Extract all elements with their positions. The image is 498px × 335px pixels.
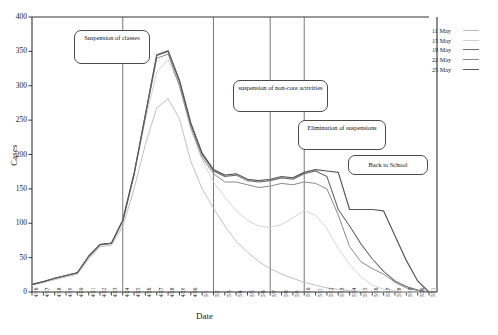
event-lines-group [123,17,304,292]
x-tick-label: 4/30 [193,288,198,297]
legend-label: 25 May [432,66,463,73]
x-tick-label: 5/9 [295,290,300,297]
x-tick-label: 5/15 [363,288,368,297]
x-tick-label: 4/29 [181,288,186,297]
x-tick-label: 5/1 [204,290,209,297]
chart-legend: 11 May15 May19 May22 May25 May [432,26,494,74]
legend-item: 25 May [432,64,494,74]
x-tick-label: 4/27 [159,288,164,297]
x-tick-label: 5/18 [397,288,402,297]
legend-item: 11 May [432,26,494,36]
legend-item: 22 May [432,55,494,65]
x-tick-label: 5/11 [318,288,323,297]
x-tick-label: 4/23 [113,288,118,297]
x-tick-label: 5/8 [284,290,289,297]
legend-swatch [463,49,479,50]
annotation-back-to-school: Back to School [348,155,428,175]
y-tick-label: 200 [1,151,27,159]
legend-swatch [463,40,479,41]
legend-item: 19 May [432,45,494,55]
x-tick-label: 4/19 [68,288,73,297]
x-axis-title: Date [196,311,213,321]
x-tick-label: 5/5 [250,290,255,297]
x-tick-label: 4/21 [91,288,96,297]
annotation-elimination-of-suspensions: Elimination of suspensions [298,120,386,150]
x-tick-label: 5/4 [238,290,243,297]
x-tick-label: 4/28 [170,288,175,297]
x-tick-label: 5/21 [431,288,436,297]
y-tick-label: 400 [1,13,27,21]
x-tick-label: 5/14 [352,288,357,297]
x-tick-label: 5/19 [408,288,413,297]
x-tick-label: 5/16 [374,288,379,297]
legend-item: 15 May [432,36,494,46]
y-tick-label: 250 [1,116,27,124]
legend-swatch [463,69,479,70]
y-tick-label: 0 [1,288,27,296]
y-tick-label: 300 [1,82,27,90]
x-tick-label: 5/2 [215,290,220,297]
x-tick-label: 5/3 [227,290,232,297]
legend-label: 19 May [432,46,463,53]
x-tick-label: 4/26 [147,288,152,297]
chart-figure: Cases Date 400350300250200150100500 4/16… [0,0,498,335]
x-tick-label: 4/16 [34,288,39,297]
x-tick-label: 4/24 [125,288,130,297]
x-tick-label: 5/7 [272,290,277,297]
y-tick-label: 100 [1,219,27,227]
x-tick-label: 4/18 [57,288,62,297]
x-tick-label: 5/20 [420,288,425,297]
annotation-suspension-of-classes: Suspension of classes [74,30,150,64]
y-tick-label: 150 [1,185,27,193]
x-tick-label: 4/22 [102,288,107,297]
annotation-suspension-of-non-core-activities: suspension of non-core activities [233,80,328,112]
x-tick-label: 5/17 [386,288,391,297]
x-tick-label: 4/20 [79,288,84,297]
legend-swatch [463,30,479,31]
x-tick-label: 5/10 [306,288,311,297]
legend-label: 22 May [432,56,463,63]
x-tick-label: 5/13 [340,288,345,297]
x-tick-label: 4/17 [45,288,50,297]
legend-swatch [463,59,479,60]
legend-label: 11 May [432,27,463,34]
y-tick-label: 350 [1,47,27,55]
x-tick-label: 4/25 [136,288,141,297]
x-tick-label: 5/6 [261,290,266,297]
y-tick-label: 50 [1,254,27,262]
x-tick-label: 5/12 [329,288,334,297]
legend-label: 15 May [432,37,463,44]
